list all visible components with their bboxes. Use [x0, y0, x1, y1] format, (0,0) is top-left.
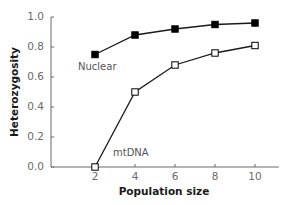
y-axis: 0.00.20.40.60.81.0 [27, 10, 54, 172]
filled-square-marker [252, 20, 258, 26]
mtdna-series-label: mtDNA [113, 147, 149, 158]
y-tick-label: 0.2 [27, 130, 44, 142]
open-square-marker [172, 62, 178, 68]
x-tick-label: 8 [212, 170, 219, 182]
filled-square-marker [172, 26, 178, 32]
x-tick-label: 2 [92, 170, 99, 182]
y-axis-title: Heterozygosity [8, 47, 20, 137]
nuclear-series-label: Nuclear [78, 61, 117, 72]
filled-square-marker [132, 32, 138, 38]
open-square-marker [92, 164, 98, 170]
heterozygosity-line-chart: 0.00.20.40.60.81.0 246810 Heterozygosity… [0, 0, 289, 205]
y-tick-label: 0.4 [27, 100, 44, 112]
y-tick-label: 0.8 [27, 40, 44, 52]
x-tick-label: 4 [132, 170, 139, 182]
filled-square-marker [92, 51, 98, 57]
y-tick-label: 0.6 [27, 70, 44, 82]
filled-square-marker [212, 21, 218, 27]
x-axis: 246810 [51, 164, 279, 182]
y-tick-label: 1.0 [27, 10, 44, 22]
y-tick-label: 0.0 [27, 160, 44, 172]
series-nuclear [92, 20, 258, 58]
open-square-marker [212, 50, 218, 56]
open-square-marker [252, 42, 258, 48]
open-square-marker [132, 89, 138, 95]
x-axis-title: Population size [119, 185, 210, 197]
x-tick-label: 6 [172, 170, 179, 182]
x-tick-label: 10 [248, 170, 261, 182]
